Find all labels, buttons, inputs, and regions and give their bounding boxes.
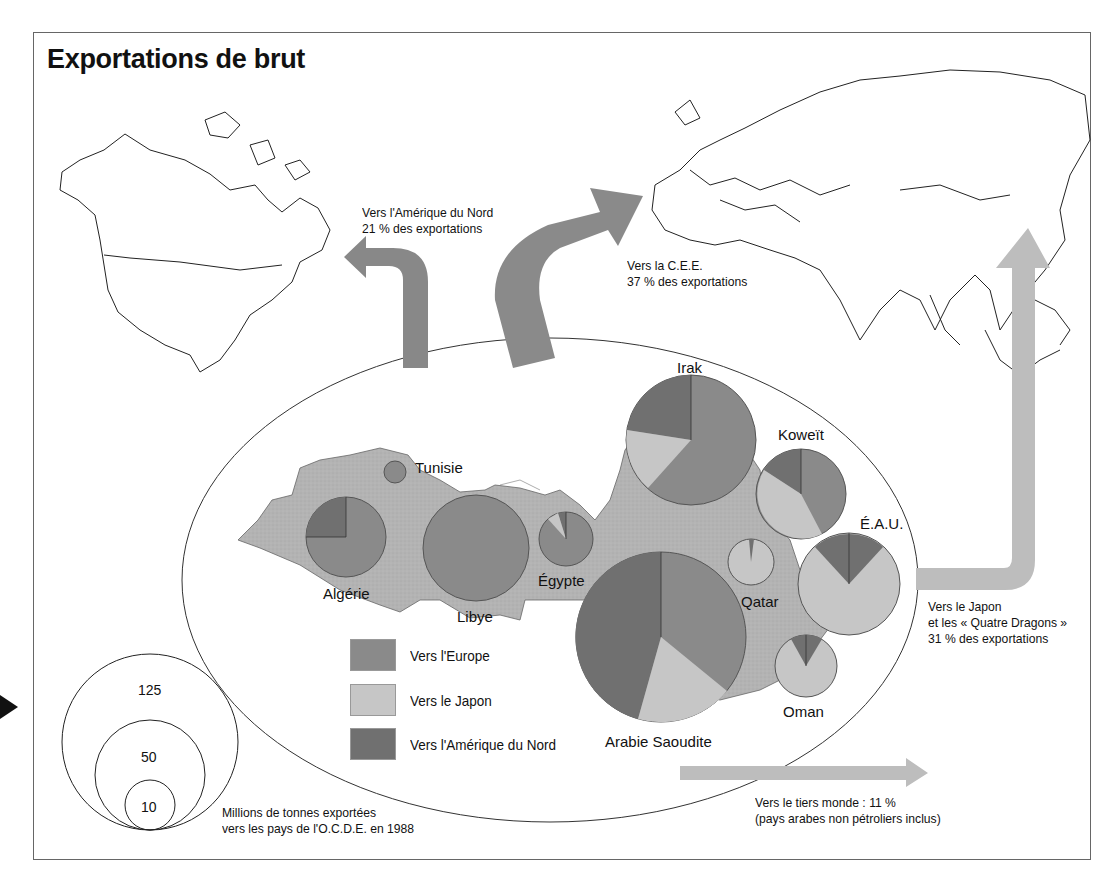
label-egypte: Égypte: [538, 572, 585, 589]
arrow-tiers-monde: [680, 758, 928, 787]
label-libye: Libye: [457, 608, 493, 625]
pie-qatar: [728, 539, 774, 585]
pie-irak: [626, 375, 756, 505]
pie-libye: [423, 495, 529, 601]
legend-item-europe: Vers l'Europe: [350, 639, 499, 671]
label-irak: Irak: [677, 359, 702, 376]
label-koweit: Koweït: [778, 426, 824, 443]
pie-oman: [775, 635, 837, 697]
swatch-europe: [350, 639, 396, 671]
legend-item-japon: Vers le Japon: [350, 684, 501, 716]
size-label-125: 125: [138, 682, 161, 698]
arrow-cee: [495, 188, 643, 368]
pie-eau: [798, 533, 900, 635]
size-label-10: 10: [141, 799, 157, 815]
north-america-map: [60, 112, 330, 372]
pie-egypte: [539, 512, 593, 566]
label-eau: É.A.U.: [860, 515, 903, 532]
flow-label-cee: Vers la C.E.E. 37 % des exportations: [627, 258, 747, 290]
pie-arabie-saoudite: [575, 552, 746, 722]
pie-algerie: [306, 497, 386, 577]
pie-koweit: [756, 449, 846, 539]
label-oman: Oman: [783, 703, 824, 720]
flow-label-tiers-monde: Vers le tiers monde : 11 % (pays arabes …: [755, 795, 941, 827]
label-qatar: Qatar: [741, 593, 779, 610]
size-label-50: 50: [141, 749, 157, 765]
label-tunisie: Tunisie: [415, 459, 463, 476]
label-algerie: Algérie: [323, 585, 370, 602]
swatch-amerique-nord: [350, 728, 396, 760]
flow-label-japon: Vers le Japon et les « Quatre Dragons » …: [928, 599, 1067, 647]
flow-label-north-america: Vers l'Amérique du Nord 21 % des exporta…: [362, 205, 493, 237]
pie-tunisie: [384, 461, 406, 483]
legend-item-amerique-nord: Vers l'Amérique du Nord: [350, 728, 572, 760]
arrow-north-america: [344, 236, 428, 368]
swatch-japon: [350, 684, 396, 716]
label-arabie-saoudite: Arabie Saoudite: [605, 733, 712, 750]
size-legend-caption: Millions de tonnes exportées vers les pa…: [222, 805, 414, 837]
